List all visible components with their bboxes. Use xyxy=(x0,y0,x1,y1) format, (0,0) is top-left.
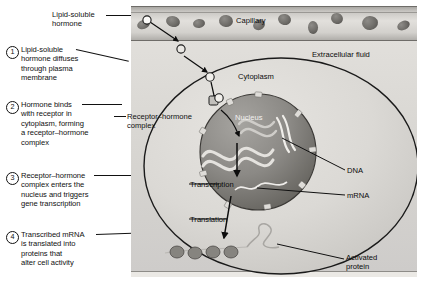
callout-line-2: hormone xyxy=(52,19,95,28)
hormone-action-figure: Lipid-soluble hormone 1 Lipid-soluble ho… xyxy=(0,0,421,283)
step-2-number: 2 xyxy=(6,101,19,114)
step-4-line-3: proteins that xyxy=(21,249,84,258)
activated-protein-label: Activated protein xyxy=(346,253,377,271)
step-2-line-5: complex xyxy=(21,138,89,147)
translation-label: Translation xyxy=(190,215,227,224)
step-4-line-2: is translated into xyxy=(21,239,84,248)
step-1-line-4: membrane xyxy=(21,73,78,82)
mrna-label: mRNA xyxy=(347,191,369,200)
hormone-diffusion-path-2 xyxy=(184,56,207,72)
step-3-number: 3 xyxy=(6,172,19,185)
step-2-line-4: a receptor–hormone xyxy=(21,128,89,137)
step-3-line-2: complex enters the xyxy=(21,180,88,189)
receptor-hormone-line-2: complex xyxy=(127,121,192,130)
activated-protein-line-1: Activated xyxy=(346,253,377,262)
step-4-line-4: alter cell activity xyxy=(21,258,84,267)
callout-line-1: Lipid-soluble xyxy=(52,10,95,19)
illustration-panel: Capillary Extracellular fluid Cytoplasm … xyxy=(131,6,417,277)
hormone-diffusion-path-1 xyxy=(150,22,178,41)
step-4-text: Transcribed mRNA is translated into prot… xyxy=(21,230,84,268)
step-1-line-3: through plasma xyxy=(21,64,78,73)
step-2-leader-line xyxy=(82,104,122,105)
transcription-label: Transcription xyxy=(190,180,234,189)
step-2-line-3: cytoplasm, forming xyxy=(21,119,89,128)
cytoplasm-label: Cytoplasm xyxy=(238,72,274,81)
hormone-molecule xyxy=(177,45,185,53)
step-2-line-2: with receptor in xyxy=(21,109,89,118)
step-3-line-3: nucleus and triggers xyxy=(21,190,88,199)
step-1-line-1: Lipid-soluble xyxy=(21,45,78,54)
hormone-molecule xyxy=(143,16,151,24)
extracellular-fluid-label: Extracellular fluid xyxy=(312,50,370,59)
step-4-number: 4 xyxy=(6,231,19,244)
lipid-soluble-hormone-callout: Lipid-soluble hormone xyxy=(52,10,95,29)
receptor-hormone-line-1: Receptor–hormone xyxy=(127,112,192,121)
step-1-number: 1 xyxy=(6,46,19,59)
step-1-text: Lipid-soluble hormone diffuses through p… xyxy=(21,45,78,83)
step-3-line-4: gene transcription xyxy=(21,199,88,208)
receptor-hormone-complex xyxy=(215,94,223,102)
activated-protein-line-2: protein xyxy=(346,262,377,271)
step-2-text: Hormone binds with receptor in cytoplasm… xyxy=(21,100,89,147)
step-2-line-1: Hormone binds xyxy=(21,100,89,109)
step-4-line-1: Transcribed mRNA xyxy=(21,230,84,239)
step-3-text: Receptor–hormone complex enters the nucl… xyxy=(21,171,88,209)
hormone-molecule xyxy=(206,73,214,81)
receptor-hormone-leader-line xyxy=(114,116,126,117)
nucleus-label: Nucleus xyxy=(235,113,262,122)
cell-vector-layer xyxy=(131,6,417,277)
step-1-leader-line xyxy=(76,49,129,62)
receptor-hormone-complex-label: Receptor–hormone complex xyxy=(127,112,192,131)
capillary-label: Capillary xyxy=(236,16,266,25)
dna-label: DNA xyxy=(347,166,363,175)
step-3-line-1: Receptor–hormone xyxy=(21,171,88,180)
step-1-line-2: hormone diffuses xyxy=(21,54,78,63)
